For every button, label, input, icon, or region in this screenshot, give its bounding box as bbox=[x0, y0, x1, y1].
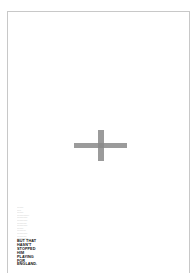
cross-vertical-bar bbox=[98, 130, 104, 161]
poster-frame: xxxxxxxx xxxxx xxxxxxxx xxxxxxxxxxxxxxx … bbox=[7, 11, 190, 273]
headline: BUT THAT HASN'T STOPPED HIM PLAYING FOR … bbox=[17, 240, 57, 267]
headline-line: ENGLAND. bbox=[17, 263, 57, 267]
body-copy: xxxxxxxx xxxxx xxxxxxxx xxxxxxxxxxxxxxx … bbox=[17, 207, 47, 241]
